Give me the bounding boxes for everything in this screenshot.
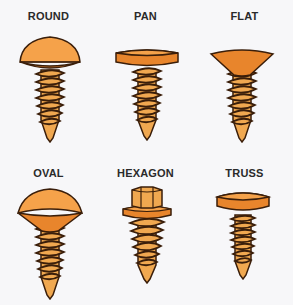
oval-screw-icon xyxy=(0,175,97,305)
screw-flat: FLAT xyxy=(196,0,293,150)
pan-screw-icon xyxy=(97,20,194,150)
screw-hexagon: HEXAGON xyxy=(97,150,194,305)
round-screw-icon xyxy=(0,20,97,150)
flat-screw-icon xyxy=(196,20,293,150)
screw-round: ROUND xyxy=(0,0,97,150)
hexagon-screw-icon xyxy=(97,175,194,305)
screw-pan: PAN xyxy=(97,0,194,150)
screw-truss: TRUSS xyxy=(196,150,293,305)
truss-screw-icon xyxy=(196,175,293,305)
screw-oval: OVAL xyxy=(0,150,97,305)
